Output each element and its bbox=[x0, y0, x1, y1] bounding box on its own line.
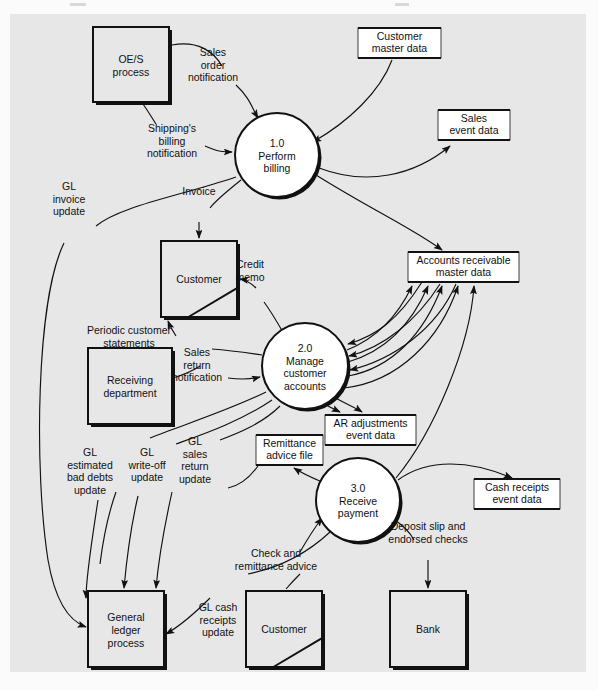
entity-e_gl[interactable]: Generalledgerprocess bbox=[88, 591, 167, 670]
flow-label-f_checkremit: Check andremittance advice bbox=[235, 547, 317, 572]
flow-line-ar-from-billing bbox=[316, 175, 442, 250]
flow-line-shipping-b bbox=[205, 146, 232, 152]
datastore-d_remit[interactable]: Remittanceadvice file bbox=[256, 435, 323, 465]
datastore-label-d_custmaster: Customermaster data bbox=[372, 30, 428, 54]
datastore-d_aradj[interactable]: AR adjustmentsevent data bbox=[325, 415, 416, 445]
flow-line-sales-event bbox=[319, 146, 450, 177]
entity-e_bank[interactable]: Bank bbox=[390, 591, 469, 670]
flow-line-periodic-a bbox=[212, 349, 262, 355]
process-p2[interactable]: 2.0Managecustomeraccounts bbox=[262, 323, 351, 412]
flow-line-sales-order-b bbox=[236, 85, 258, 118]
flow-label-f_deposit: Deposit slip andendorsed checks bbox=[388, 520, 467, 545]
entity-e_cust_top[interactable]: Customer bbox=[161, 241, 240, 320]
flow-line-ar-2c bbox=[348, 286, 442, 376]
datastore-label-d_cashreceipts: Cash receiptsevent data bbox=[485, 481, 549, 505]
flow-line-ar-2b bbox=[348, 286, 428, 362]
entity-rect bbox=[93, 27, 169, 102]
flow-label-f_shipbill: Shipping'sbillingnotification bbox=[147, 122, 197, 159]
entity-rect bbox=[88, 348, 172, 424]
flow-line-gl-baddebts-b bbox=[86, 500, 98, 598]
flow-line-gl-invoice-b bbox=[40, 243, 86, 627]
flow-line-ar-from-receive bbox=[396, 286, 474, 478]
datastore-d_ar[interactable]: Accounts receivablemaster data bbox=[408, 252, 519, 282]
datastore-label-d_remit: Remittanceadvice file bbox=[263, 437, 316, 461]
flow-label-f_periodic: Periodic customerstatements bbox=[87, 324, 172, 349]
flow-label-f_salesreturn: Salesreturnnotification bbox=[172, 346, 222, 383]
entity-label-e_cust_top: Customer bbox=[176, 273, 222, 285]
datastore-d_salesevent[interactable]: Salesevent data bbox=[438, 110, 510, 140]
flow-label-f_salesorder: Salesordernotification bbox=[188, 46, 238, 83]
data-store-boxes: Customermaster dataSalesevent dataAccoun… bbox=[256, 28, 560, 509]
entity-label-e_recv: Receivingdepartment bbox=[103, 374, 156, 399]
flow-line-sales-return-b bbox=[228, 377, 260, 379]
entity-e_recv[interactable]: Receivingdepartment bbox=[88, 348, 175, 427]
flow-line-ar-2a bbox=[347, 286, 412, 350]
flow-label-f_creditmemo: Creditmemo bbox=[235, 258, 264, 283]
entity-e_oes[interactable]: OE/Sprocess bbox=[93, 27, 172, 105]
entity-label-e_gl: Generalledgerprocess bbox=[107, 611, 144, 649]
flow-line-gl-writeoff-b bbox=[124, 496, 138, 588]
flow-line-shipping-a bbox=[143, 104, 156, 124]
datastore-d_cashreceipts[interactable]: Cash receiptsevent data bbox=[474, 479, 560, 509]
flow-line-check-remit-a bbox=[286, 574, 300, 589]
entity-label-e_cust_bot: Customer bbox=[261, 623, 307, 635]
entity-e_cust_bot[interactable]: Customer bbox=[246, 591, 325, 670]
flow-label-f_glcash: GL cashreceiptsupdate bbox=[199, 601, 238, 638]
diagram-page: OE/SprocessCustomerReceivingdepartmentGe… bbox=[0, 0, 598, 690]
flow-label-f_glsalesreturn: GLsalesreturnupdate bbox=[179, 435, 211, 485]
flow-label-f_glinvoice: GLinvoiceupdate bbox=[53, 180, 86, 217]
diagram-svg: OE/SprocessCustomerReceivingdepartmentGe… bbox=[0, 0, 598, 690]
flow-label-f_glbaddebts: GLestimatedbad debtsupdate bbox=[67, 446, 113, 496]
process-p1[interactable]: 1.0Performbilling bbox=[235, 113, 322, 200]
flow-line-gl-salesreturn-b bbox=[156, 492, 172, 588]
flow-label-f_invoice: Invoice bbox=[182, 185, 215, 197]
datastore-d_custmaster[interactable]: Customermaster data bbox=[358, 28, 441, 58]
flow-line-remittance bbox=[294, 468, 322, 482]
entity-label-e_bank: Bank bbox=[416, 623, 441, 635]
flow-line-ar-2e bbox=[348, 282, 422, 344]
flow-line-remit-read bbox=[228, 466, 258, 488]
flow-line-gl-baddebts-x bbox=[100, 492, 116, 564]
flow-label-f_glwriteoff: GLwrite-offupdate bbox=[127, 446, 165, 483]
flow-line-cash-receipts bbox=[398, 464, 512, 480]
flow-line-ar-2f bbox=[349, 284, 440, 356]
flow-line-customer-master bbox=[313, 60, 392, 142]
process-circles: 1.0Performbilling2.0Managecustomeraccoun… bbox=[235, 113, 403, 545]
